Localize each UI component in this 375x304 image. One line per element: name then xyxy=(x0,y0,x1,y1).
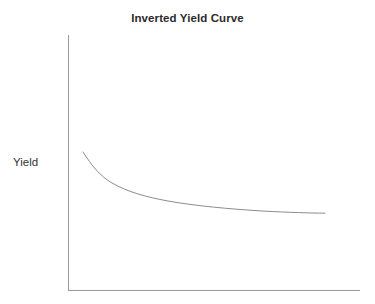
plot-area xyxy=(0,0,375,304)
yield-curve-line xyxy=(83,152,325,213)
chart-figure: Inverted Yield Curve Yield xyxy=(0,0,375,304)
